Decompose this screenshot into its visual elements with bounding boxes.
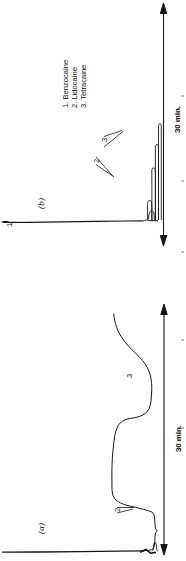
panel-b-letter: (b) — [37, 198, 46, 209]
panel-b-plot — [0, 0, 186, 280]
panel-a-trace-main — [112, 314, 158, 551]
panel-a-letter: (a) — [37, 523, 46, 534]
panel-a-baseline — [2, 551, 144, 552]
panel-a-peak-label-3: 3 — [126, 374, 134, 378]
panel-b-chromatogram: (b) 30 min. 3 2 1 1. Benzocaine 2. Lidoc… — [0, 0, 186, 280]
panel-a-plot — [0, 280, 186, 561]
legend-item-2: 2. Lidocaine — [71, 60, 79, 108]
panel-b-peak-label-3: 3 — [101, 138, 109, 142]
panel-a-time-axis — [161, 304, 167, 555]
panel-a-trace — [122, 313, 161, 551]
panel-b-trace — [143, 124, 161, 221]
panel-a-peak-label-2: 2 — [114, 508, 122, 512]
panel-b-trace-main — [112, 10, 161, 221]
panel-a-edge-ticks — [181, 340, 184, 428]
panel-a-chromatogram: (a) 30 min. 3 2 — [0, 280, 186, 561]
panel-b-axis-label: 30 min. — [174, 106, 182, 133]
legend-item-3: 3. Tetracaine — [80, 60, 88, 108]
panel-b-baseline — [3, 221, 143, 223]
panel-b-peak-label-1: 1 — [6, 223, 14, 227]
figure-chromatograms: (b) 30 min. 3 2 1 1. Benzocaine 2. Lidoc… — [0, 0, 186, 561]
panel-b-legend: 1. Benzocaine 2. Lidocaine 3. Tetracaine — [62, 60, 90, 108]
panel-a-axis-label: 30 min. — [175, 425, 183, 452]
legend-item-1: 1. Benzocaine — [62, 60, 70, 108]
panel-b-peak-label-2: 2 — [93, 159, 101, 163]
